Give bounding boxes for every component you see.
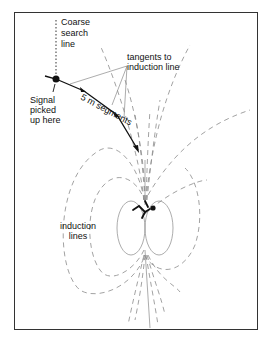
label-induction-2: lines [69, 231, 88, 241]
induction-line-up-5 [146, 110, 150, 200]
tangent-leader-3 [124, 66, 127, 118]
label-tangents-2: induction line [127, 62, 180, 72]
label-signal-2: picked [30, 105, 56, 115]
avalanche-transceiver-search-diagram: Coarse search line tangents to induction… [0, 0, 273, 349]
induction-line-far-right [148, 110, 250, 195]
induction-line-down-1 [128, 255, 144, 325]
signal-pointer [53, 84, 55, 92]
induction-lines [63, 45, 250, 325]
arrow-end [133, 145, 139, 153]
label-tangents-1: tangents to [127, 52, 172, 62]
label-signal-1: Signal [30, 95, 55, 105]
signal-point-marker [53, 76, 60, 83]
lobe-left [117, 201, 145, 255]
near-field-lobes [117, 160, 173, 328]
label-induction-1: induction [60, 221, 96, 231]
induction-line-up-2 [125, 80, 145, 200]
arrow-segment-1 [80, 87, 86, 92]
induction-line-up-4 [147, 100, 160, 200]
induction-line-down-3 [135, 255, 145, 320]
induction-line-up-6 [135, 115, 145, 200]
axis-line-down [145, 250, 150, 328]
label-search-line-1: Coarse [61, 17, 90, 27]
label-segments: 5 m segments [79, 92, 134, 128]
tangent-leader-1 [70, 66, 127, 84]
induction-line-down-4 [147, 255, 165, 315]
label-search-line-3: line [61, 39, 75, 49]
buried-victim-icon [133, 201, 156, 218]
label-signal-3: up here [30, 115, 61, 125]
label-search-line-2: search [61, 28, 88, 38]
